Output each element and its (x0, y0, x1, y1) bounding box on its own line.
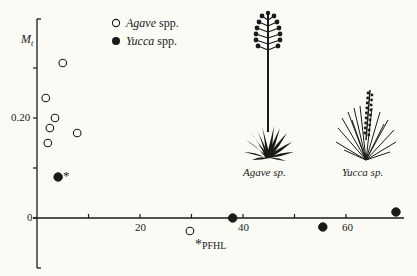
agave-data-point (73, 129, 81, 137)
caption-agave: Agave sp. (243, 167, 286, 178)
y-axis-label-main: M (21, 32, 31, 46)
chart-figure: Mt 0.20 0 20 40 60 Agave spp. Yucca spp.… (0, 0, 417, 276)
annotation-pfhl-text: PFHL (202, 240, 226, 251)
yucca-data-point (228, 214, 237, 223)
x-tick-label-60: 60 (342, 222, 353, 233)
yucca-data-point (392, 208, 401, 217)
annotation-pfhl-asterisk: * (195, 237, 202, 252)
legend-filled-circle-icon (112, 37, 120, 45)
agave-plant-illustration (244, 11, 294, 161)
x-tick-label-40: 40 (238, 222, 249, 233)
legend-yucca-genus: Yucca (126, 34, 154, 48)
yucca-data-point (54, 173, 63, 182)
caption-yucca: Yucca sp. (342, 167, 383, 178)
plot-area (0, 0, 417, 276)
legend-item-yucca: Yucca spp. (126, 35, 177, 47)
agave-data-point (46, 124, 54, 132)
x-tick-label-20: 20 (135, 222, 146, 233)
y-tick-label-0: 0 (27, 212, 33, 223)
agave-data-point (186, 227, 194, 235)
legend-open-circle-icon (112, 19, 119, 26)
agave-data-point (59, 59, 67, 67)
agave-data-point (42, 94, 50, 102)
yucca-data-point (319, 223, 328, 232)
annotation-pfhl: *PFHL (195, 238, 226, 252)
agave-data-point (51, 114, 59, 122)
agave-data-point (44, 139, 52, 147)
yucca-plant-illustration (336, 90, 396, 160)
y-axis-label: Mt (21, 33, 33, 48)
legend-agave-genus: Agave (126, 16, 156, 30)
y-axis-label-subscript: t (31, 39, 33, 48)
legend-agave-suffix: spp. (156, 16, 179, 30)
legend-yucca-suffix: spp. (154, 34, 177, 48)
y-tick-label-0-20: 0.20 (11, 112, 30, 123)
legend-item-agave: Agave spp. (126, 17, 179, 29)
annotation-asterisk-yucca: * (63, 169, 70, 182)
